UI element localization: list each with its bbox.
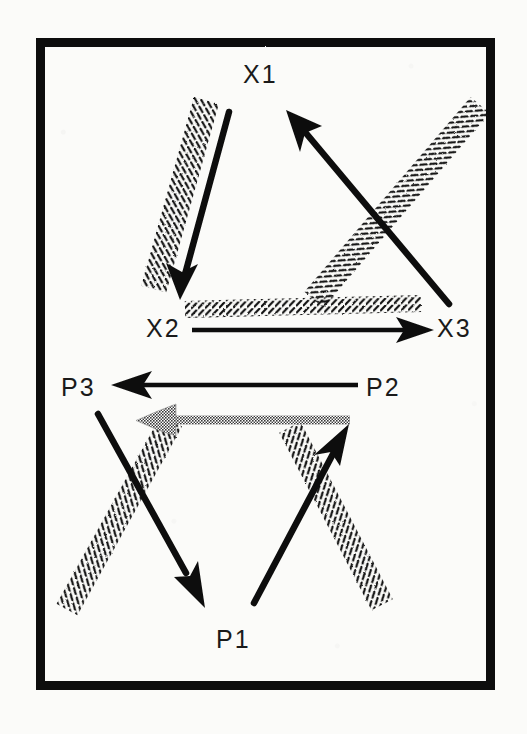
hatch-band-x2-x3 xyxy=(185,295,421,318)
hatch-band-x3-x1 xyxy=(304,97,489,308)
node-label-p1: P1 xyxy=(216,627,251,652)
arrow-x2-to-x3 xyxy=(192,317,434,343)
node-label-x1: X1 xyxy=(243,62,278,87)
arrow-p2-to-p3-ghost xyxy=(136,404,350,436)
node-label-x3: X3 xyxy=(437,316,472,341)
node-label-x2: X2 xyxy=(146,316,181,341)
arrow-x3-to-x1 xyxy=(286,110,449,304)
arrow-p2-to-p3 xyxy=(111,371,358,399)
node-label-p2: P2 xyxy=(366,375,401,400)
figure-canvas: X1 X2 X3 P3 P2 P1 xyxy=(0,0,527,734)
diagram-svg xyxy=(0,0,527,734)
hatch-band-p3-p1 xyxy=(56,415,182,616)
node-label-p3: P3 xyxy=(61,375,96,400)
